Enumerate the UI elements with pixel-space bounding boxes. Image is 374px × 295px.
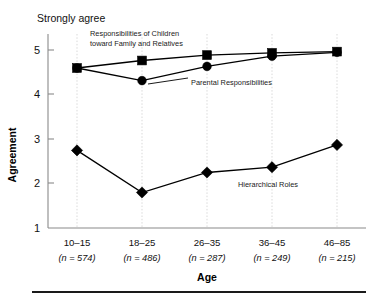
annotation-hierarchical-label: Hierarchical Roles [238, 180, 298, 189]
x-category-label: 26–35 [194, 237, 221, 248]
y-tick-label-1: 1 [34, 222, 40, 234]
marker-circle [268, 52, 277, 61]
x-axis-title: Age [197, 271, 217, 283]
marker-diamond [136, 187, 147, 198]
marker-circle [203, 62, 212, 71]
x-category-count: (n = 249) [253, 253, 290, 263]
marker-circle [138, 76, 147, 85]
x-category-label: 36–45 [259, 237, 286, 248]
chart-figure: 5 4 3 2 1 Strongly agree Agreement [0, 0, 374, 295]
x-category-count: (n = 287) [188, 253, 225, 263]
annotation-children-line1: Responsibilities of Children [90, 29, 179, 38]
x-category-label: 10–15 [64, 237, 91, 248]
y-tick-label-3: 3 [34, 133, 40, 145]
x-category-count: (n = 574) [58, 253, 95, 263]
annotation-parental-leader [148, 78, 188, 84]
x-category-label: 18–25 [129, 237, 156, 248]
top-anchor-label: Strongly agree [37, 12, 105, 24]
marker-diamond [266, 162, 277, 173]
y-tick-label-4: 4 [34, 88, 40, 100]
x-category-count: (n = 215) [318, 253, 355, 263]
y-tick-label-2: 2 [34, 177, 40, 189]
marker-square [138, 56, 147, 65]
y-tick-labels: 5 4 3 2 1 [34, 44, 40, 234]
annotation-children-line2: toward Family and Relatives [90, 39, 183, 48]
x-category-label: 46–85 [324, 237, 351, 248]
x-category-counts: (n = 574) (n = 486) (n = 287) (n = 249) … [58, 253, 355, 263]
line-chart: 5 4 3 2 1 Strongly agree Agreement [0, 0, 374, 295]
annotation-parental: Parental Responsibilities [148, 78, 272, 87]
y-axis-title: Agreement [6, 127, 18, 182]
marker-circle [333, 48, 342, 57]
x-category-labels: 10–15 18–25 26–35 36–45 46–85 [64, 237, 351, 248]
marker-diamond [331, 139, 342, 150]
y-tick-label-5: 5 [34, 44, 40, 56]
annotation-parental-label: Parental Responsibilities [191, 78, 272, 87]
marker-square [203, 51, 212, 60]
x-category-count: (n = 486) [123, 253, 160, 263]
annotation-children: Responsibilities of Children toward Fami… [90, 29, 183, 48]
marker-diamond [201, 167, 212, 178]
marker-circle [73, 64, 82, 73]
marker-diamond [71, 145, 82, 156]
